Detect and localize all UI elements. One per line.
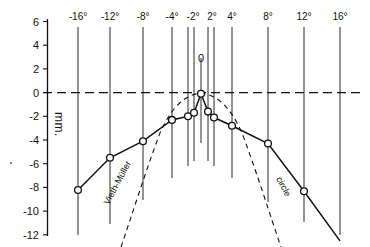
circle-annotation: circle: [274, 175, 293, 198]
y-tick-label: 2: [33, 63, 39, 75]
x-tick-label: -16°: [69, 11, 87, 22]
data-point: [169, 117, 176, 124]
x-tick-label: -12°: [101, 11, 119, 22]
data-point: [301, 188, 308, 195]
data-point: [198, 90, 205, 97]
y-tick-label: -6: [29, 158, 39, 170]
x-tick-label: 2°: [207, 11, 217, 22]
data-point: [191, 109, 198, 116]
data-point: [140, 138, 147, 145]
scan-artifact-dot: [10, 162, 12, 164]
x-tick-label: 16°: [332, 11, 347, 22]
y-axis-ticks: [43, 22, 48, 235]
x-tick-label: -8°: [137, 11, 150, 22]
data-point: [211, 114, 218, 121]
vieth-muller-annotation: Vieth-Müller: [102, 159, 133, 206]
x-tick-label: -2°: [187, 11, 200, 22]
x-tick-label: -4°: [166, 11, 179, 22]
data-point: [107, 154, 114, 161]
y-axis-tick-labels: 6 4 2 0 -2 -4 -6 -8 -10 -12: [23, 16, 39, 241]
y-tick-label: 6: [33, 16, 39, 28]
data-point: [265, 140, 272, 147]
data-point: [205, 108, 212, 115]
x-tick-label: 12°: [296, 11, 311, 22]
data-point: [229, 122, 236, 129]
y-tick-label: -12: [23, 229, 39, 241]
data-point: [75, 187, 82, 194]
y-tick-label: 0: [33, 87, 39, 99]
x-tick-label: 8°: [263, 11, 273, 22]
horopter-deviation-chart: 6 4 2 0 -2 -4 -6 -8 -10 -12 mm. -16° -12…: [0, 0, 370, 247]
y-axis-title: mm.: [52, 112, 66, 137]
x-tick-label: 4°: [227, 11, 237, 22]
y-tick-label: -4: [29, 134, 39, 146]
y-tick-label: -2: [29, 110, 39, 122]
empirical-horopter-curve: [78, 94, 340, 241]
degree-rays: [78, 27, 340, 235]
data-point-markers: [75, 90, 308, 194]
center-ray-label: 0: [198, 52, 204, 64]
y-tick-label: -10: [23, 205, 39, 217]
y-tick-label: -8: [29, 181, 39, 193]
degree-axis-labels: -16° -12° -8° -4° -2° 2° 4° 8° 12° 16°: [69, 11, 348, 22]
y-tick-label: 4: [33, 39, 39, 51]
